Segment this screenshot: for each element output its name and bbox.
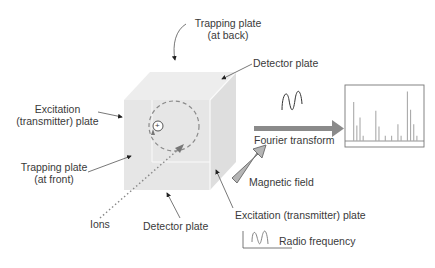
label-line: (at back) — [183, 29, 273, 41]
label-line: Excitation — [10, 103, 105, 115]
icr-cell-cube — [124, 72, 236, 190]
mass-spectrum-chart — [345, 85, 424, 147]
label-trapping-plate-front: Trapping plate (at front) — [14, 161, 94, 185]
label-detector-plate-bottom: Detector plate — [143, 220, 208, 232]
label-trapping-plate-back: Trapping plate (at back) — [183, 17, 273, 41]
cube-front-face — [124, 100, 210, 190]
label-line: (at front) — [14, 173, 94, 185]
pointer-detector-bottom — [167, 193, 180, 218]
label-line: (transmitter) plate — [10, 115, 105, 127]
label-ions: Ions — [90, 218, 110, 230]
label-magnetic-field: Magnetic field — [249, 176, 314, 188]
label-radio-frequency: Radio frequency — [279, 235, 355, 247]
ion-plus-sign: + — [155, 120, 160, 132]
pointer-excitation-right — [216, 170, 233, 208]
label-line: Trapping plate — [183, 17, 273, 29]
label-fourier-transform: Fourier transform — [254, 134, 335, 146]
label-excitation-plate-right: Excitation (transmitter) plate — [235, 209, 366, 221]
label-line: Trapping plate — [14, 161, 94, 173]
label-excitation-plate-left: Excitation (transmitter) plate — [10, 103, 105, 127]
label-detector-plate-top: Detector plate — [253, 57, 318, 69]
signal-wave-icon — [282, 91, 302, 110]
pointer-detector-top — [222, 64, 252, 79]
